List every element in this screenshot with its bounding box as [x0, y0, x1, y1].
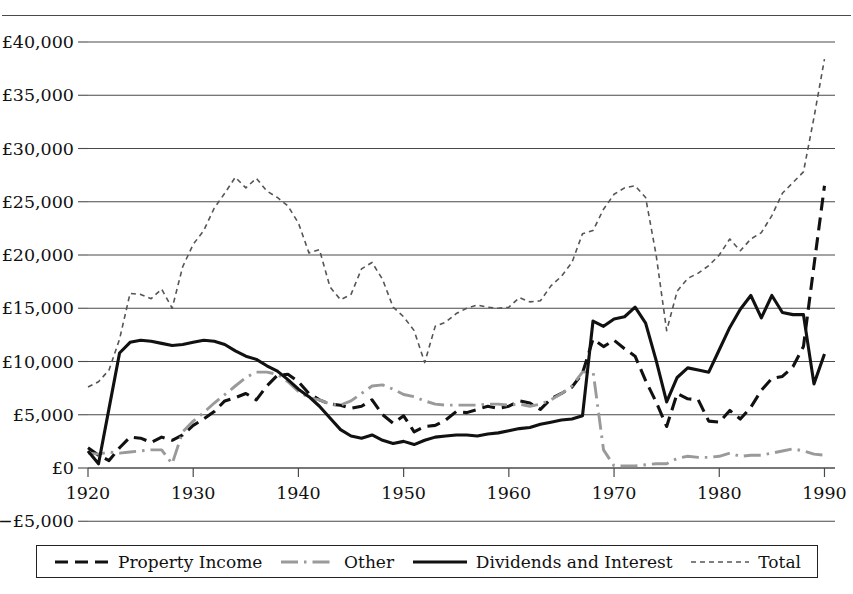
series-line [88, 371, 824, 466]
y-axis-tick-label: £0 [52, 458, 74, 478]
y-axis-tick-label: £20,000 [2, 245, 74, 265]
series-line [88, 295, 824, 463]
chart-figure: £40,000£35,000£30,000£25,000£20,000£15,0… [0, 0, 853, 594]
x-axis-labels-group: 19201930194019501960197019801990 [66, 483, 847, 503]
legend-label: Property Income [118, 552, 262, 572]
x-axis-tick-label: 1940 [276, 483, 321, 503]
y-axis-tick-label: £25,000 [2, 192, 74, 212]
y-axis-tick-label: £15,000 [2, 298, 74, 318]
legend-label: Total [758, 552, 801, 572]
line-chart-plot: £40,000£35,000£30,000£25,000£20,000£15,0… [0, 0, 853, 540]
legend-swatch-dashed [53, 555, 111, 569]
legend-label: Dividends and Interest [476, 552, 673, 572]
legend-item[interactable]: Total [689, 552, 801, 572]
x-axis-tick-label: 1980 [697, 483, 742, 503]
y-axis-tick-label: £40,000 [2, 32, 74, 52]
series-line [88, 59, 824, 387]
y-axis-labels-group: £40,000£35,000£30,000£25,000£20,000£15,0… [0, 32, 74, 531]
y-axis-tick-label: £35,000 [2, 85, 74, 105]
x-axis-tick-label: 1950 [381, 483, 426, 503]
x-axis-tick-label: 1930 [171, 483, 216, 503]
series-line [88, 186, 824, 461]
legend-item[interactable]: Property Income [53, 552, 262, 572]
legend-swatch-solid [411, 555, 469, 569]
y-axis-tick-label: £30,000 [2, 139, 74, 159]
chart-legend: Property IncomeOtherDividends and Intere… [36, 545, 818, 578]
legend-swatch-dashdot [279, 555, 337, 569]
x-axis-tick-label: 1960 [487, 483, 532, 503]
x-axis-tick-label: 1970 [592, 483, 637, 503]
x-axis-tick-label: 1990 [802, 483, 847, 503]
y-axis-tick-label: £5,000 [13, 405, 74, 425]
series-group [88, 59, 824, 466]
x-axis-tick-label: 1920 [66, 483, 111, 503]
y-axis-tick-label: £10,000 [2, 352, 74, 372]
legend-label: Other [344, 552, 394, 572]
y-axis-tick-label: −£5,000 [0, 511, 74, 531]
legend-item[interactable]: Dividends and Interest [411, 552, 673, 572]
gridlines-group [78, 42, 835, 521]
legend-swatch-dotted [689, 555, 751, 569]
legend-item[interactable]: Other [279, 552, 394, 572]
x-tickmarks-group [88, 468, 824, 477]
